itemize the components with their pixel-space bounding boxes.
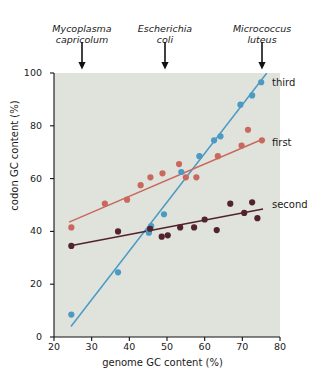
data-point-first [159,170,165,176]
data-point-first [238,143,244,149]
data-point-first [102,201,108,207]
data-point-second [191,224,197,230]
series-label-third: third [272,77,295,88]
x-tick-label: 50 [152,341,182,352]
data-point-second [227,201,233,207]
data-point-second [177,224,183,230]
x-tick-label: 60 [190,341,220,352]
data-point-third [258,79,264,85]
data-point-third [237,102,243,108]
data-point-third [115,269,121,275]
data-point-first [147,174,153,180]
data-point-second [254,215,260,221]
data-point-first [245,127,251,133]
data-point-second [241,210,247,216]
data-point-second [249,199,255,205]
y-tick-label: 0 [2,331,42,342]
x-tick-label: 80 [265,341,295,352]
data-point-first [124,197,130,203]
data-point-third [196,153,202,159]
data-point-third [68,311,74,317]
species-label: Escherichia coli [138,23,192,45]
data-point-second [159,234,165,240]
data-point-first [183,174,189,180]
data-point-first [193,174,199,180]
data-point-third [161,211,167,217]
data-point-first [215,153,221,159]
x-tick-label: 40 [114,341,144,352]
data-point-third [217,133,223,139]
data-point-second [202,216,208,222]
data-point-third [249,92,255,98]
plot-area [54,73,280,337]
x-tick-label: 30 [77,341,107,352]
data-point-second [165,232,171,238]
data-point-second [68,243,74,249]
species-annotation-mycoplasma-capricolum: Mycoplasma capricolum [34,12,130,45]
trend-line-third [71,73,267,326]
species-annotation-escherichia-coli: Escherichia coli [117,12,213,45]
data-point-third [178,169,184,175]
series-label-second: second [272,199,308,210]
species-label: Micrococcus luteus [233,23,291,45]
data-point-first [176,161,182,167]
x-axis-title: genome GC content (%) [0,357,325,368]
species-annotation-micrococcus-luteus: Micrococcus luteus [214,12,310,45]
figure-canvas: Mycoplasma capricolum Escherichia coli M… [0,0,325,381]
data-point-third [211,137,217,143]
trend-line-first [69,139,263,222]
x-tick-label: 20 [39,341,69,352]
x-tick-label: 70 [227,341,257,352]
data-point-first [259,137,265,143]
data-point-first [68,224,74,230]
species-label: Mycoplasma capricolum [52,23,111,45]
data-point-first [138,182,144,188]
y-axis-title: codon GC content (%) [9,56,20,256]
data-point-second [147,226,153,232]
data-point-second [214,227,220,233]
scatter-plot-svg [54,73,280,337]
series-label-first: first [272,137,292,148]
data-point-second [115,228,121,234]
y-tick-label: 20 [2,278,42,289]
